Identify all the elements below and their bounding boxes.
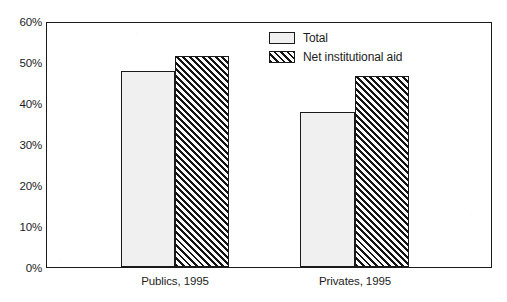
bar-publics-net-institutional-aid xyxy=(175,56,229,267)
y-tick-label: 0% xyxy=(0,262,42,274)
x-category-label-publics: Publics, 1995 xyxy=(141,275,209,287)
bar-chart: 60% 50% 40% 30% 20% 10% 0% Total Net ins… xyxy=(0,0,507,302)
legend: Total Net institutional aid xyxy=(269,28,402,66)
legend-item-total: Total xyxy=(269,28,402,47)
y-tick-label: 30% xyxy=(0,139,42,151)
y-tick-label: 60% xyxy=(0,16,42,28)
solid-swatch-icon xyxy=(269,32,295,44)
legend-label: Total xyxy=(303,31,328,45)
y-axis: 60% 50% 40% 30% 20% 10% 0% xyxy=(0,0,42,302)
y-tick-label: 10% xyxy=(0,221,42,233)
y-tick-label: 40% xyxy=(0,98,42,110)
bar-publics-total xyxy=(121,71,175,267)
legend-label: Net institutional aid xyxy=(303,50,402,64)
bar-privates-net-institutional-aid xyxy=(355,76,409,267)
y-tick-label: 50% xyxy=(0,57,42,69)
plot-area: Total Net institutional aid xyxy=(46,22,492,268)
hatch-swatch-icon xyxy=(269,51,295,63)
y-tick-label: 20% xyxy=(0,180,42,192)
bar-privates-total xyxy=(300,112,355,267)
x-category-label-privates: Privates, 1995 xyxy=(319,275,391,287)
legend-item-net-institutional-aid: Net institutional aid xyxy=(269,47,402,66)
